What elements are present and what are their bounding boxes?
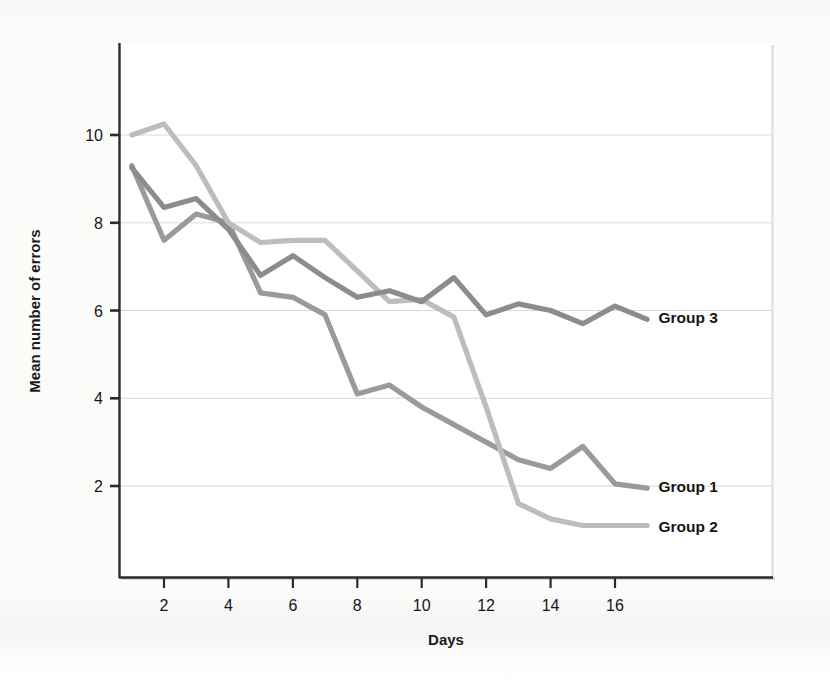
y-axis-title: Mean number of errors [26, 229, 43, 392]
y-tick-label: 10 [85, 127, 103, 144]
y-axis-tick-labels: 246810 [85, 127, 103, 495]
x-tick-label: 4 [224, 597, 233, 614]
x-tick-label: 2 [160, 597, 169, 614]
x-axis-tick-labels: 246810121416 [160, 597, 624, 614]
series-label-group-2: Group 2 [659, 518, 718, 535]
line-chart: 246810 246810121416 Group 1Group 2Group … [0, 0, 830, 684]
y-tick-label: 8 [94, 215, 103, 232]
x-tick-label: 12 [477, 597, 495, 614]
figure-container: 246810 246810121416 Group 1Group 2Group … [0, 0, 830, 684]
y-tick-label: 2 [94, 478, 103, 495]
x-tick-label: 16 [606, 597, 624, 614]
x-tick-label: 8 [353, 597, 362, 614]
x-tick-label: 6 [288, 597, 297, 614]
y-tick-label: 6 [94, 303, 103, 320]
x-axis-title: Days [428, 631, 464, 648]
plot-shadow-right [771, 45, 774, 579]
y-axis-ticks [110, 135, 119, 486]
series-label-group-3: Group 3 [659, 309, 719, 326]
y-tick-label: 4 [94, 390, 103, 407]
x-tick-label: 10 [413, 597, 431, 614]
x-tick-label: 14 [542, 597, 560, 614]
series-label-group-1: Group 1 [659, 478, 719, 495]
